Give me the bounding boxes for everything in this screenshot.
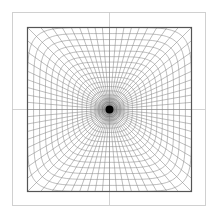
center-point (106, 106, 114, 114)
distortion-grid-figure (0, 0, 218, 218)
distortion-grid-svg (0, 0, 218, 218)
